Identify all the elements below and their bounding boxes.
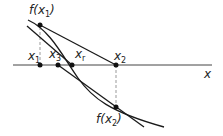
diagram: f(x1) x1 x3 xr x2 x f(x2) [0, 0, 223, 136]
label-f-x2: f(x2) [96, 113, 122, 128]
label-x3: x3 [49, 48, 61, 63]
point-f-x2 [114, 105, 119, 110]
point-f-x1 [38, 23, 43, 28]
label-x1: x1 [28, 50, 40, 65]
label-x2: x2 [114, 50, 126, 65]
label-f-x1: f(x1) [29, 4, 55, 19]
point-xr [70, 63, 75, 68]
function-curve [28, 20, 164, 127]
label-xr: xr [75, 48, 85, 63]
label-axis-x: x [204, 68, 211, 80]
